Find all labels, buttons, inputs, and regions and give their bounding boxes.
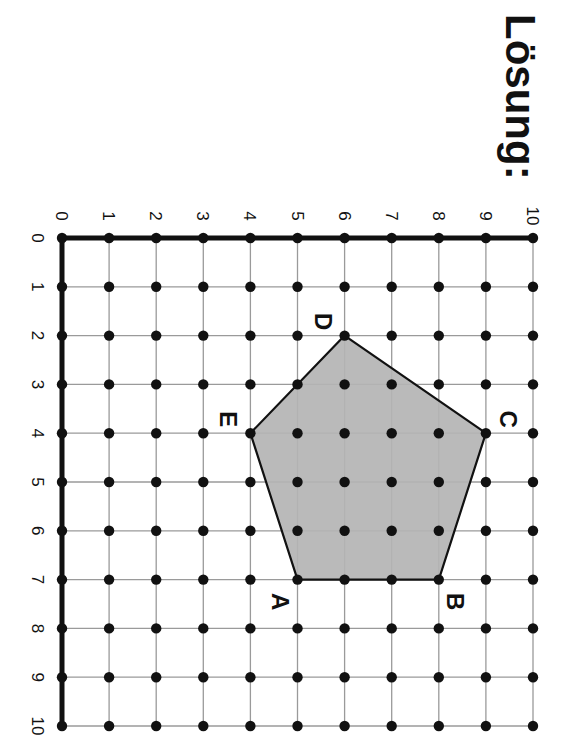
x-tick-label: 0 [28,233,47,242]
lattice-dot [528,623,538,633]
lattice-dot [292,526,302,536]
lattice-dot [151,428,161,438]
lattice-dot [387,672,397,682]
x-tick-label: 10 [28,717,47,736]
lattice-dot [245,379,255,389]
lattice-dot [528,330,538,340]
vertex-label-b: B [442,593,469,610]
lattice-dot [387,428,397,438]
vertex-label-a: A [267,593,294,610]
lattice-dot [339,672,349,682]
lattice-dot [434,282,444,292]
lattice-dot [104,233,114,243]
y-tick-label: 7 [382,211,401,220]
lattice-dot [387,330,397,340]
x-tick-label: 2 [28,331,47,340]
lattice-dot [481,233,491,243]
lattice-dot [245,721,255,731]
lattice-dot [57,672,67,682]
lattice-dot [528,721,538,731]
lattice-dot [198,233,208,243]
lattice-dot [104,526,114,536]
lattice-dot [198,623,208,633]
lattice-dot [57,721,67,731]
lattice-dot [198,282,208,292]
lattice-dot [339,282,349,292]
vertex-label-d: D [310,313,337,330]
page-title: Lösung: [497,14,544,180]
lattice-dot [198,574,208,584]
lattice-dot [151,526,161,536]
lattice-dot [481,477,491,487]
x-tick-label: 8 [28,624,47,633]
lattice-dot [528,574,538,584]
lattice-dot [292,574,302,584]
lattice-dot [57,233,67,243]
lattice-dot [434,477,444,487]
lattice-dot [151,233,161,243]
lattice-dot [387,233,397,243]
lattice-dot [245,623,255,633]
x-tick-label: 6 [28,526,47,535]
y-tick-label: 3 [193,211,212,220]
lattice-dot [292,379,302,389]
lattice-dot [387,282,397,292]
x-tick-label: 9 [28,672,47,681]
lattice-dot [434,330,444,340]
lattice-dot [481,721,491,731]
lattice-dot [104,574,114,584]
y-tick-label: 2 [146,211,165,220]
lattice-dot [104,477,114,487]
lattice-dot [57,282,67,292]
lattice-dot [292,672,302,682]
pentagon-abcde [250,336,486,580]
lattice-dot [528,428,538,438]
lattice-dot [57,379,67,389]
lattice-dot [339,330,349,340]
lattice-dot [198,428,208,438]
lattice-dot [339,477,349,487]
lattice-dot [104,330,114,340]
lattice-dot [104,672,114,682]
lattice-dot [339,428,349,438]
x-axis-tick-labels: 012345678910 [28,233,47,735]
lattice-dot [481,672,491,682]
lattice-dot [245,233,255,243]
lattice-dot [481,526,491,536]
lattice-dot [434,526,444,536]
lattice-dot [339,233,349,243]
y-tick-label: 1 [99,211,118,220]
y-axis-tick-labels: 012345678910 [52,207,542,226]
x-tick-label: 1 [28,282,47,291]
lattice-dot [387,574,397,584]
lattice-dot [528,282,538,292]
y-tick-label: 0 [52,211,71,220]
y-tick-label: 8 [429,211,448,220]
lattice-dot [481,428,491,438]
lattice-dot [339,526,349,536]
x-tick-label: 3 [28,380,47,389]
lattice-dot [481,623,491,633]
lattice-dot [104,428,114,438]
lattice-dot [245,282,255,292]
lattice-dot [434,721,444,731]
lattice-dot [387,623,397,633]
lattice-dot [151,574,161,584]
lattice-dot [481,574,491,584]
lattice-dot [57,526,67,536]
lattice-dot [434,428,444,438]
lattice-dot [339,379,349,389]
lattice-dot [528,379,538,389]
lattice-dot [245,428,255,438]
lattice-dot [434,574,444,584]
lattice-dot [151,477,161,487]
y-tick-label: 6 [335,211,354,220]
lattice-dot [57,574,67,584]
lattice-dot [104,623,114,633]
lattice-dot [245,574,255,584]
lattice-dot [198,379,208,389]
lattice-dot [292,330,302,340]
lattice-dot [245,672,255,682]
lattice-dot [245,477,255,487]
lattice-dot [434,233,444,243]
